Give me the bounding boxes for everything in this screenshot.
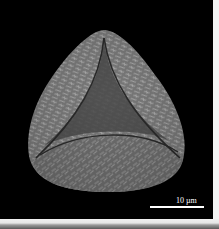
scale-bar-label: 10 µm bbox=[176, 196, 197, 205]
right-frame-strip bbox=[213, 0, 219, 219]
micrograph-panel: 10 µm bbox=[0, 0, 213, 219]
bottom-frame-strip bbox=[0, 219, 219, 229]
pollen-grain bbox=[0, 0, 213, 219]
scale-bar bbox=[150, 206, 204, 208]
